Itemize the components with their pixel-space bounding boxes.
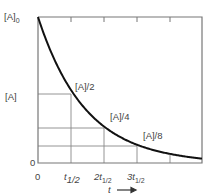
arrow-icon	[117, 188, 136, 193]
x-label-t-half: t1/2	[64, 171, 81, 185]
annotation-eighth: [A]/8	[143, 130, 163, 141]
annotation-half: [A]/2	[75, 81, 95, 92]
x-label-3t-half: 3t1/2	[127, 171, 145, 184]
y-axis-label: [A]	[5, 91, 17, 102]
guide-lines	[38, 94, 170, 163]
y-label-initial: [A]0	[4, 11, 20, 24]
decay-curve	[38, 17, 202, 159]
x-label-2t-half: 2t1/2	[93, 171, 112, 184]
y-label-zero: 0	[30, 157, 35, 168]
x-label-zero: 0	[35, 171, 40, 182]
half-life-chart: [A]0 [A] 0 0 t1/2 2t1/2 3t1/2 t [A]/2 [A…	[0, 0, 207, 196]
top-ticks	[71, 17, 170, 22]
annotation-quarter: [A]/4	[110, 111, 130, 122]
x-axis-label: t	[108, 184, 111, 195]
plot-frame	[38, 17, 202, 163]
